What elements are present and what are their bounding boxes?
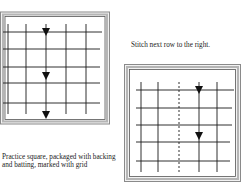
inner-frame — [130, 70, 236, 177]
practice-square-caption: Practice square, packaged with backing a… — [2, 153, 120, 169]
next-row-caption: Stitch next row to the right. — [131, 41, 243, 49]
next-row-square-diagram — [124, 64, 242, 184]
practice-square-diagram — [0, 10, 112, 126]
